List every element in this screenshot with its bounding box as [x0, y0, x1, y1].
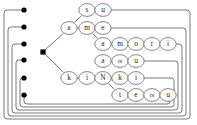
- node-n_a3[interactable]: [95, 55, 111, 68]
- terminal-dot-1[interactable]: [21, 7, 26, 12]
- edge-hub-n_k1: [45, 54, 64, 72]
- node-n_N[interactable]: [95, 72, 111, 85]
- node-n_r[interactable]: [144, 38, 160, 51]
- edge-n_N-n_t: [109, 84, 115, 89]
- node-n_m2[interactable]: [112, 38, 128, 51]
- node-n_ts1[interactable]: [112, 55, 128, 68]
- node-n_e1[interactable]: [95, 22, 111, 35]
- node-group: [61, 4, 176, 102]
- node-n_o[interactable]: [128, 38, 144, 51]
- terminal-dot-group: [21, 7, 45, 97]
- node-n_a1[interactable]: [61, 22, 77, 35]
- node-n_k1[interactable]: [61, 72, 77, 85]
- node-n_i1[interactable]: [160, 38, 176, 51]
- node-n_e2[interactable]: [128, 89, 144, 102]
- node-n_t[interactable]: [112, 89, 128, 102]
- edge-n_a1-n_s: [75, 16, 82, 22]
- node-n_i2[interactable]: [79, 72, 95, 85]
- node-n_u1[interactable]: [95, 4, 111, 17]
- node-n_u2[interactable]: [128, 55, 144, 68]
- terminal-dot-5[interactable]: [21, 75, 26, 80]
- terminal-dot-6[interactable]: [21, 92, 26, 97]
- diagram-canvas: suameamoriatsukiNkitetsu: [0, 0, 197, 125]
- node-n_i3[interactable]: [128, 72, 144, 85]
- node-n_k2[interactable]: [112, 72, 128, 85]
- feedback-loop-atsu: [16, 60, 178, 110]
- node-n_a2[interactable]: [95, 38, 111, 51]
- start-hub[interactable]: [40, 49, 45, 54]
- terminal-dot-4[interactable]: [21, 57, 26, 62]
- node-n_u3[interactable]: [160, 89, 176, 102]
- edge-n_m1-n_a2: [93, 34, 98, 38]
- edge-hub-n_a1: [45, 34, 63, 51]
- node-n_m1[interactable]: [79, 22, 95, 35]
- diagram-svg: [0, 0, 197, 125]
- node-n_s[interactable]: [79, 4, 95, 17]
- terminal-dot-3[interactable]: [21, 41, 26, 46]
- terminal-dot-2[interactable]: [21, 24, 26, 29]
- node-n_ts2[interactable]: [144, 89, 160, 102]
